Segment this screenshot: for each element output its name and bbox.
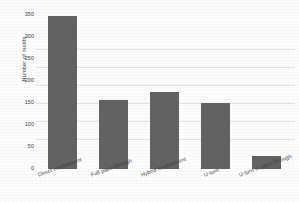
y-tick-label-300: 300 — [12, 34, 34, 39]
bar-hybrid-involvement — [150, 92, 179, 169]
bar-chart: Number of motifs 350 300 250 200 150 100… — [0, 0, 299, 202]
y-axis: Number of motifs 350 300 250 200 150 100… — [10, 0, 34, 202]
y-tick-label-350: 350 — [12, 12, 34, 17]
y-tick-label-50: 50 — [12, 144, 34, 149]
bar-direct-involvement — [48, 16, 77, 169]
y-tick-label-0: 0 — [12, 166, 34, 171]
bar-u-turn — [201, 103, 230, 169]
y-tick-label-100: 100 — [12, 122, 34, 127]
y-tick-label-250: 250 — [12, 56, 34, 61]
y-tick-label-150: 150 — [12, 100, 34, 105]
plot-area — [36, 15, 292, 169]
y-tick-label-200: 200 — [12, 78, 34, 83]
